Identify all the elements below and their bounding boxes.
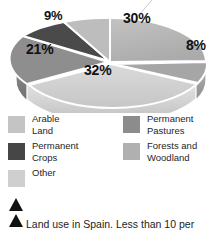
legend-column-right: Permanent Pastures Forests and Woodland	[123, 113, 218, 167]
pie-label-forests-woodland: 8%	[186, 38, 206, 52]
legend-label-permanent-crops: Permanent Crops	[32, 140, 78, 163]
legend-swatch-other	[8, 170, 25, 187]
pie-label-permanent-pastures: 21%	[26, 42, 53, 56]
triangle-marker-icon	[9, 198, 23, 211]
legend-item-permanent-pastures: Permanent Pastures	[123, 113, 218, 140]
legend-label-permanent-pastures: Permanent Pastures	[147, 113, 193, 136]
legend-item-other: Other	[8, 167, 113, 194]
chart-caption-text: Land use in Spain. Less than 10 per	[26, 218, 194, 230]
chart-caption-block: Land use in Spain. Less than 10 per	[0, 196, 221, 239]
legend-item-arable-land: Arable Land	[8, 113, 113, 140]
legend-swatch-arable-land	[8, 116, 25, 133]
legend-item-permanent-crops: Permanent Crops	[8, 140, 113, 167]
legend-swatch-permanent-pastures	[123, 116, 140, 133]
legend-item-forests-woodland: Forests and Woodland	[123, 140, 218, 167]
legend-column-left: Arable Land Permanent Crops Other	[8, 113, 113, 194]
pie-label-arable-land: 30%	[123, 11, 150, 25]
legend-swatch-permanent-crops	[8, 143, 25, 160]
legend-label-arable-land: Arable Land	[32, 113, 59, 136]
legend-swatch-forests-woodland	[123, 143, 140, 160]
pie-chart-plot: 30% 8% 32% 21% 9%	[0, 0, 221, 113]
pie-chart-figure: 30% 8% 32% 21% 9% Arable Land Permanent …	[0, 0, 221, 239]
legend-label-other: Other	[32, 167, 56, 179]
legend-label-forests-woodland: Forests and Woodland	[147, 140, 197, 163]
pie-label-permanent-crops: 9%	[44, 9, 62, 22]
pie-label-other: 32%	[84, 63, 111, 77]
chart-legend: Arable Land Permanent Crops Other Perman…	[0, 113, 221, 193]
triangle-marker-icon	[9, 214, 23, 227]
